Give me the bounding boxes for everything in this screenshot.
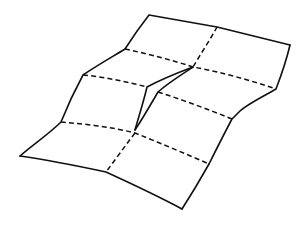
- folded-sheet-diagram: [0, 0, 304, 227]
- sheet-surface: [20, 15, 290, 209]
